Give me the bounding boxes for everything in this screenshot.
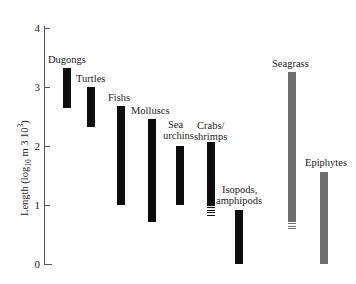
x-axis-stub (44, 264, 52, 265)
bar-label-dugongs: Dugongs (48, 54, 86, 66)
bar-label-crabs-line2: shrimps (194, 131, 227, 143)
bar-turtles (87, 87, 95, 127)
y-tick-1 (45, 205, 50, 206)
bar-label-turtles: Turtles (76, 73, 105, 85)
y-tick-label-0: 0 (26, 259, 40, 270)
y-axis-title: Length (log10 m 3 103) (16, 120, 33, 216)
bar-molluscs (148, 119, 156, 222)
chart-canvas: 4 3 2 1 0 Length (log10 m 3 103) Dugongs… (0, 0, 356, 284)
bar-crabs-shrimps-hatched-tail (207, 205, 215, 217)
bar-label-seagrass: Seagrass (272, 58, 309, 70)
bar-dugongs (63, 68, 71, 108)
y-axis-title-prefix: Length (log (19, 167, 30, 216)
y-tick-3 (45, 87, 50, 88)
bar-label-epiphytes: Epiphytes (305, 157, 347, 169)
bar-sea-urchins (176, 146, 184, 205)
bar-epiphytes (320, 172, 328, 264)
bar-crabs-shrimps (207, 142, 215, 205)
bar-seagrass (288, 72, 296, 221)
bar-seagrass-hatched-tail (288, 221, 296, 230)
bar-fishes (117, 106, 125, 205)
bar-label-isopods-line2: amphipods (216, 195, 262, 207)
y-axis-title-suffix: ) (19, 120, 30, 124)
y-tick-label-3: 3 (26, 82, 40, 93)
bar-label-molluscs: Molluscs (131, 105, 170, 117)
bar-label-fishes: Fishs (108, 92, 130, 104)
y-axis-title-sub: 10 (24, 159, 33, 167)
y-tick-label-4: 4 (26, 23, 40, 34)
bar-label-sea-urchins-line2: urchins (163, 130, 194, 142)
bar-label-crabs-line1: Crabs/ (197, 120, 224, 132)
y-axis-title-mid: m 3 10 (19, 127, 30, 159)
y-tick-2 (45, 146, 50, 147)
y-axis-title-sup: 3 (16, 124, 25, 128)
bar-isopods-amphipods (235, 210, 243, 264)
y-tick-4 (45, 28, 50, 29)
bar-label-sea-urchins-line1: Sea (168, 119, 183, 131)
bar-label-isopods-line1: Isopods, (222, 184, 257, 196)
